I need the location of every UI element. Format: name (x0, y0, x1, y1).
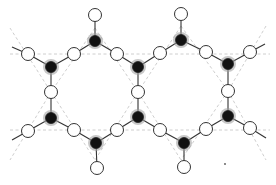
white-node (22, 48, 35, 61)
white-node (22, 125, 35, 138)
white-node (68, 48, 81, 61)
black-node (46, 62, 57, 73)
black-node (46, 113, 57, 124)
black-node (223, 59, 234, 70)
white-node (68, 124, 81, 137)
white-node (154, 124, 167, 137)
black-node (91, 138, 102, 149)
black-node (90, 36, 101, 47)
black-node (133, 112, 144, 123)
white-node (200, 46, 213, 59)
white-nodes (22, 8, 257, 175)
white-node (222, 85, 235, 98)
black-node (179, 138, 190, 149)
black-node (223, 111, 234, 122)
white-node (154, 47, 167, 60)
black-node (133, 62, 144, 73)
stray-specks (224, 163, 226, 165)
black-node (176, 35, 187, 46)
white-node (89, 9, 102, 22)
white-node (175, 8, 188, 21)
white-node (91, 162, 104, 175)
white-node (244, 122, 257, 135)
white-node (111, 48, 124, 61)
white-node (111, 124, 124, 137)
white-node (45, 86, 58, 99)
speck-dot (224, 163, 226, 165)
white-node (200, 123, 213, 136)
white-node (178, 161, 191, 174)
hexagonal-lattice-diagram (0, 0, 276, 185)
white-node (244, 46, 257, 59)
white-node (132, 86, 145, 99)
